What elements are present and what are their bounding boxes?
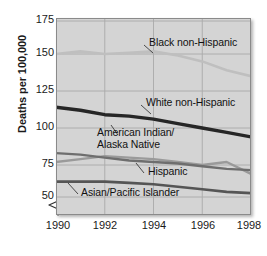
y-tick-125: 125 bbox=[20, 83, 54, 95]
x-tick-1996: 1996 bbox=[191, 219, 215, 231]
annotation-leader-lines bbox=[68, 45, 153, 194]
x-tick-1992: 1992 bbox=[93, 219, 117, 231]
plot-area: Black non-Hispanic White non-Hispanic Am… bbox=[56, 18, 251, 215]
series-label-american-indian-line1: American Indian/ bbox=[97, 126, 174, 138]
series-label-american-indian-line2: Alaska Native bbox=[97, 138, 160, 150]
y-tick-150: 150 bbox=[20, 46, 54, 58]
y-tick-175: 175 bbox=[20, 13, 54, 25]
series-label-white-non-hispanic: White non-Hispanic bbox=[146, 96, 235, 108]
x-tick-1994: 1994 bbox=[142, 219, 166, 231]
x-axis-tick-labels: 1990 1992 1994 1996 1998 bbox=[0, 219, 267, 237]
x-tick-1998: 1998 bbox=[237, 219, 261, 231]
series-label-hispanic: Hispanic bbox=[148, 165, 187, 177]
y-tick-100: 100 bbox=[20, 120, 54, 132]
y-tick-75: 75 bbox=[20, 157, 54, 169]
x-tick-1990: 1990 bbox=[46, 219, 70, 231]
series-label-asian-pacific-islander: Asian/Pacific Islander bbox=[81, 186, 179, 198]
chart-figure: Deaths per 100,000 175 150 125 100 75 50 bbox=[0, 0, 267, 256]
series-label-black-non-hispanic: Black non-Hispanic bbox=[149, 36, 237, 48]
y-axis-tick-labels: 175 150 125 100 75 50 bbox=[16, 0, 54, 256]
